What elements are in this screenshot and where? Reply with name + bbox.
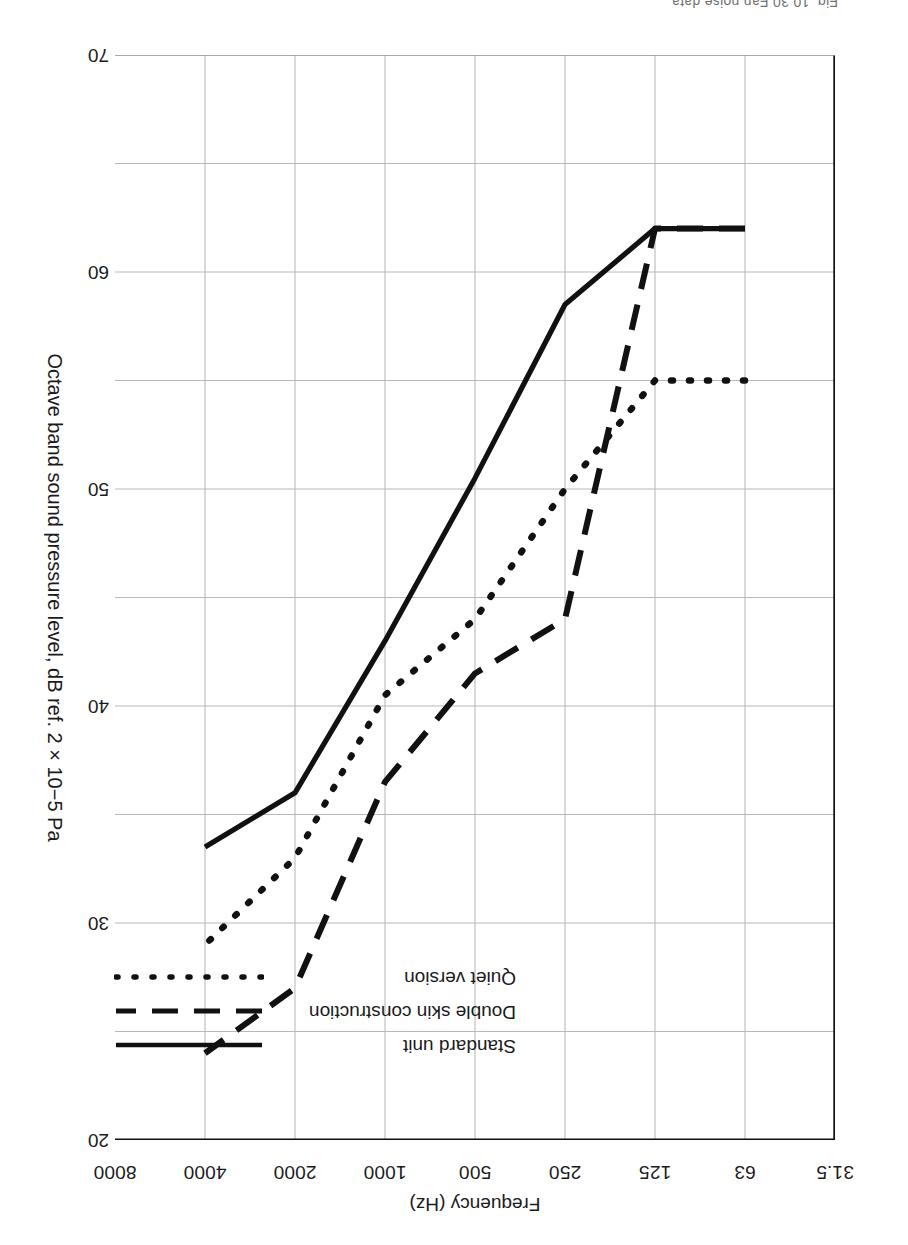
y-tick-label: 60 [88,261,109,283]
chart-legend: Standard unitDouble skin constructionQui… [114,952,516,1060]
legend-swatch-dashed [114,1005,301,1019]
legend-item: Quiet version [114,964,516,992]
x-tick-label: 8000 [93,1161,136,1183]
legend-item: Double skin construction [114,998,516,1026]
x-tick-label: 4000 [183,1161,226,1183]
y-tick-label: 40 [88,695,109,717]
x-tick-label: 31.5 [816,1161,854,1183]
legend-item: Standard unit [114,1032,516,1060]
x-tick-label: 250 [549,1161,581,1183]
figure-page: Fig. 10.30 Fan noise data Frequency (Hz)… [0,0,908,1245]
y-tick-label: 20 [88,1129,109,1151]
x-tick-label: 1000 [363,1161,406,1183]
legend-label: Standard unit [403,1035,516,1057]
y-tick-label: 50 [88,478,109,500]
x-tick-label: 125 [639,1161,671,1183]
x-axis-tick-labels: 31.5631252505001000200040008000 [115,1149,835,1183]
legend-label: Quiet version [404,967,516,989]
x-tick-label: 63 [734,1161,756,1183]
legend-swatch-solid [114,1039,395,1053]
y-tick-label: 30 [88,912,109,934]
y-axis-title-text: Octave band sound pressure level, dB ref… [44,353,67,841]
x-tick-label: 2000 [273,1161,316,1183]
chart-figure: Frequency (Hz) 31.5631252505001000200040… [0,0,908,1245]
y-tick-label: 70 [88,44,109,66]
legend-swatch-dotted [114,971,396,985]
y-axis-title: Octave band sound pressure level, dB ref… [40,55,70,1140]
x-axis-title: Frequency (Hz) [115,1193,835,1215]
legend-label: Double skin construction [309,1001,516,1023]
x-tick-label: 500 [459,1161,491,1183]
rotated-figure-container: Fig. 10.30 Fan noise data Frequency (Hz)… [0,0,908,1245]
